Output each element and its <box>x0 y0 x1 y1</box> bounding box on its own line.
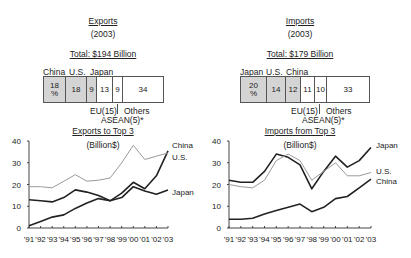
y-tick-label: 20 <box>212 181 221 190</box>
series-line-japan <box>229 148 371 189</box>
series-line-us <box>29 145 168 188</box>
series-label: China <box>172 141 193 150</box>
exports-panel: Exports (2003) Total: $194 Billion China… <box>0 0 205 258</box>
x-tick-label: '92 <box>236 235 247 244</box>
x-tick-label: '97 <box>93 235 104 244</box>
x-tick-label: '95 <box>70 235 81 244</box>
x-tick-label: '91 <box>224 235 235 244</box>
series-label: Japan <box>172 188 194 197</box>
x-tick-label: '00 <box>330 235 341 244</box>
imports-line-chart: 010203040'91'92'93'94'95'96'97'98'99'00'… <box>205 0 411 258</box>
y-tick-label: 0 <box>17 224 22 233</box>
x-tick-label: '98 <box>105 235 116 244</box>
x-tick-label: '99 <box>318 235 329 244</box>
x-tick-label: '99 <box>116 235 127 244</box>
x-tick-label: '96 <box>82 235 93 244</box>
x-tick-label: '02 <box>354 235 365 244</box>
x-tick-label: '03 <box>366 235 377 244</box>
y-tick-label: 30 <box>212 159 221 168</box>
series-label: Japan <box>376 141 398 150</box>
x-tick-label: '98 <box>307 235 318 244</box>
x-tick-label: '97 <box>295 235 306 244</box>
x-tick-label: '02 <box>151 235 162 244</box>
series-line-china <box>29 151 168 226</box>
series-label: U.S. <box>376 167 392 176</box>
x-tick-label: '94 <box>59 235 70 244</box>
exports-line-chart: 010203040'91'92'93'94'95'96'97'98'99'00'… <box>0 0 205 258</box>
x-tick-label: '01 <box>342 235 353 244</box>
x-tick-label: '01 <box>140 235 151 244</box>
series-line-china <box>229 179 371 219</box>
y-tick-label: 40 <box>12 137 21 146</box>
y-tick-label: 10 <box>212 202 221 211</box>
y-tick-label: 0 <box>217 224 222 233</box>
x-tick-label: '91 <box>24 235 35 244</box>
series-label: U.S. <box>172 153 188 162</box>
imports-panel: Imports (2003) Total: $179 Billion Japan… <box>205 0 410 258</box>
x-tick-label: '95 <box>271 235 282 244</box>
x-tick-label: '00 <box>128 235 139 244</box>
y-tick-label: 30 <box>12 159 21 168</box>
x-tick-label: '93 <box>247 235 258 244</box>
y-tick-label: 20 <box>12 181 21 190</box>
x-tick-label: '92 <box>35 235 46 244</box>
y-tick-label: 10 <box>12 202 21 211</box>
series-line-japan <box>29 187 168 202</box>
x-tick-label: '96 <box>283 235 294 244</box>
x-tick-label: '93 <box>47 235 58 244</box>
x-tick-label: '03 <box>163 235 174 244</box>
y-tick-label: 40 <box>212 137 221 146</box>
x-tick-label: '94 <box>259 235 270 244</box>
series-label: China <box>376 177 397 186</box>
